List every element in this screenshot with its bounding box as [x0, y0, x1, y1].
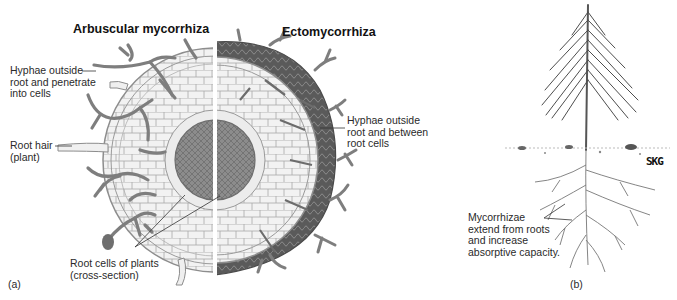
mycorrhiza-illustration	[0, 0, 677, 300]
callout-root-hair: Root hair (plant)	[10, 140, 53, 163]
panel-a-label: (a)	[8, 278, 21, 290]
ectomycorrhiza-title: Ectomycorrhiza	[282, 25, 376, 39]
callout-hyphae-penetrate: Hyphae outside root and penetrate into c…	[10, 65, 96, 100]
soil-surface	[505, 144, 670, 155]
callout-root-cells: Root cells of plants (cross-section)	[70, 258, 159, 281]
pine-seedling	[542, 5, 638, 150]
arbuscular-title: Arbuscular mycorrhiza	[73, 22, 209, 36]
vesicle	[102, 234, 114, 250]
root-hair-shape	[58, 143, 108, 152]
watermark-logo: SKG	[646, 155, 663, 168]
panel-b-label: (b)	[570, 278, 583, 290]
callout-hyphae-between: Hyphae outside root and between root cel…	[347, 115, 428, 150]
callout-mycorrhizae-extend: Mycorrhizae extend from roots and increa…	[468, 212, 560, 258]
